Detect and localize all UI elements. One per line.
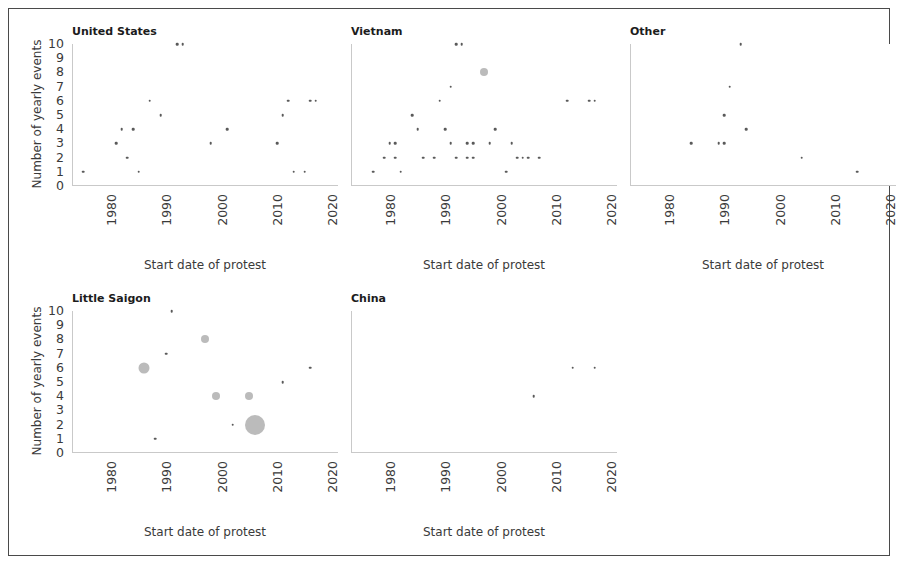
plot-area-china: [351, 311, 617, 453]
x-tick-label: 2000: [217, 194, 230, 226]
x-tick-label: 2010: [272, 461, 285, 493]
y-axis-line: [72, 311, 73, 453]
x-tick-label: 1980: [106, 461, 119, 493]
data-point: [154, 438, 157, 441]
x-tick-label: 1980: [106, 194, 119, 226]
data-point: [449, 142, 452, 145]
data-point: [411, 114, 414, 117]
data-point: [226, 128, 229, 131]
data-point: [510, 142, 513, 145]
data-point: [139, 362, 150, 373]
data-point: [115, 142, 118, 145]
facet-scatter-figure: United States012345678910Number of yearl…: [0, 0, 900, 566]
data-point: [480, 68, 488, 76]
data-point: [690, 142, 693, 145]
data-point: [82, 171, 85, 174]
data-point: [521, 156, 524, 159]
data-point: [856, 171, 859, 174]
panel-other: Other: [630, 44, 896, 186]
panel-title-united-states: United States: [72, 25, 157, 38]
data-point: [588, 100, 591, 103]
data-point: [472, 142, 475, 145]
data-point: [728, 85, 731, 88]
x-tick-label: 1980: [664, 194, 677, 226]
data-point: [566, 100, 569, 103]
data-point: [472, 156, 475, 159]
data-point: [466, 156, 469, 159]
y-axis-line: [72, 44, 73, 186]
x-tick-label: 2010: [830, 194, 843, 226]
data-point: [121, 128, 124, 131]
x-tick-label: 1990: [719, 194, 732, 226]
panel-title-other: Other: [630, 25, 665, 38]
panel-united-states: United States: [72, 44, 338, 186]
x-tick-label: 2000: [496, 461, 509, 493]
x-axis-line: [72, 452, 338, 453]
x-axis-title: Start date of protest: [72, 525, 338, 539]
panel-china: China: [351, 311, 617, 453]
x-tick-label: 2010: [272, 194, 285, 226]
data-point: [292, 171, 295, 174]
data-point: [201, 335, 209, 343]
x-tick-label: 2020: [327, 461, 340, 493]
y-axis-line: [630, 44, 631, 186]
data-point: [571, 367, 574, 370]
plot-area-little-saigon: [72, 311, 338, 453]
data-point: [315, 100, 318, 103]
data-point: [231, 423, 234, 426]
data-point: [740, 43, 743, 46]
data-point: [245, 392, 253, 400]
data-point: [309, 367, 312, 370]
x-tick-label: 2010: [551, 461, 564, 493]
y-axis-line: [351, 311, 352, 453]
data-point: [527, 156, 530, 159]
data-point: [245, 415, 265, 435]
x-axis-line: [72, 185, 338, 186]
plot-area-other: [630, 44, 896, 186]
x-tick-label: 2000: [775, 194, 788, 226]
x-axis-title: Start date of protest: [72, 258, 338, 272]
x-axis-title: Start date of protest: [630, 258, 896, 272]
x-tick-label: 1990: [161, 194, 174, 226]
figure-page: United States012345678910Number of yearl…: [0, 0, 900, 566]
data-point: [594, 100, 597, 103]
x-tick-label: 1990: [440, 461, 453, 493]
panel-little-saigon: Little Saigon: [72, 311, 338, 453]
data-point: [394, 142, 397, 145]
data-point: [466, 142, 469, 145]
data-point: [494, 128, 497, 131]
data-point: [400, 171, 403, 174]
plot-area-united-states: [72, 44, 338, 186]
data-point: [372, 171, 375, 174]
panel-title-vietnam: Vietnam: [351, 25, 403, 38]
x-tick-label: 1990: [440, 194, 453, 226]
data-point: [388, 142, 391, 145]
x-tick-label: 1990: [161, 461, 174, 493]
data-point: [533, 395, 536, 398]
data-point: [594, 367, 597, 370]
data-point: [159, 114, 162, 117]
data-point: [455, 43, 458, 46]
data-point: [276, 142, 279, 145]
data-point: [148, 100, 151, 103]
x-axis-line: [351, 452, 617, 453]
x-tick-label: 2010: [551, 194, 564, 226]
data-point: [438, 100, 441, 103]
data-point: [383, 156, 386, 159]
data-point: [394, 156, 397, 159]
data-point: [422, 156, 425, 159]
data-point: [745, 128, 748, 131]
data-point: [281, 381, 284, 384]
data-point: [516, 156, 519, 159]
data-point: [416, 128, 419, 131]
data-point: [281, 114, 284, 117]
x-tick-label: 2020: [885, 194, 898, 226]
data-point: [723, 142, 726, 145]
data-point: [287, 100, 290, 103]
data-point: [182, 43, 185, 46]
data-point: [538, 156, 541, 159]
x-tick-label: 1980: [385, 194, 398, 226]
x-tick-label: 2020: [606, 194, 619, 226]
panel-vietnam: Vietnam: [351, 44, 617, 186]
y-axis-line: [351, 44, 352, 186]
